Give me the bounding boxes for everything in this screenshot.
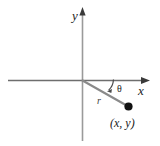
point-marker <box>124 102 132 110</box>
polar-coordinate-figure: y x θ r (x, y) <box>0 0 160 146</box>
radius-label: r <box>97 95 101 106</box>
y-axis-arrowhead-icon <box>79 7 85 16</box>
x-axis-label: x <box>137 83 144 98</box>
y-axis-label: y <box>70 8 78 23</box>
theta-label: θ <box>117 83 122 94</box>
coordinate-diagram-svg: y x θ r (x, y) <box>0 0 160 146</box>
point-coordinate-label: (x, y) <box>110 116 135 130</box>
